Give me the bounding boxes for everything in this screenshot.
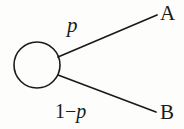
lower-probability-prefix: 1 — [55, 100, 65, 122]
probability-branch-figure: p 1−p A B — [0, 0, 184, 129]
upper-branch-probability-label: p — [67, 15, 78, 36]
decision-node-circle — [14, 42, 60, 88]
outcome-label-a: A — [160, 3, 175, 24]
diagram-canvas — [0, 0, 184, 129]
lower-branch-probability-label: 1−p — [55, 101, 86, 121]
outcome-label-b: B — [160, 102, 174, 123]
lower-probability-variable: p — [76, 100, 86, 122]
lower-probability-minus-operator: − — [65, 100, 76, 122]
